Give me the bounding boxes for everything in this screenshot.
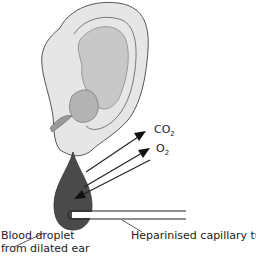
o2-label: O2 (156, 142, 169, 157)
co2-arrowhead-icon (134, 131, 146, 141)
tube-label: Heparinised capillary tube (131, 229, 256, 242)
o2-arrowhead-icon (138, 148, 150, 158)
droplet-label-line1: Blood droplet (1, 229, 90, 242)
droplet-label: Blood droplet from dilated ear (1, 229, 90, 255)
blood-droplet (54, 152, 92, 230)
ear-canal (70, 90, 99, 122)
co2-label: CO2 (154, 123, 175, 138)
diagram-canvas (0, 0, 256, 263)
droplet-label-line2: from dilated ear (1, 242, 90, 255)
o2-arrow-line (84, 153, 142, 187)
inward-arrow-line (80, 160, 150, 196)
tube-bore (72, 212, 186, 218)
